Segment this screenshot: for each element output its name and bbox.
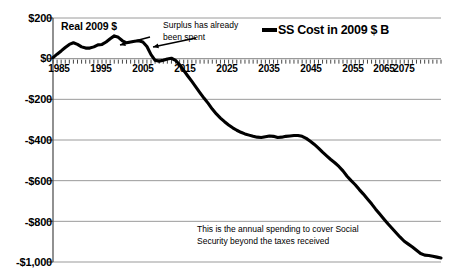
annotation-surplus-spent: Surplus has already been spent xyxy=(163,19,238,43)
x-axis-tick-2075: 2075 xyxy=(384,63,424,74)
x-axis-tick-2045: 2045 xyxy=(291,63,331,74)
chart-legend: SS Cost in 2009 $ B xyxy=(262,23,389,37)
x-axis-tick-2005: 2005 xyxy=(123,63,163,74)
legend-label-ss-cost: SS Cost in 2009 $ B xyxy=(278,23,389,37)
y-axis-tick-2: -$200 xyxy=(0,93,52,105)
chart-container: $200 $0 -$200 -$400 -$600 -$800 -$1,000 … xyxy=(0,0,458,269)
annotation-real-dollars: Real 2009 $ xyxy=(61,20,117,32)
y-axis-tick-4: -$600 xyxy=(0,175,52,187)
arrow-head-surplus-note xyxy=(153,44,159,49)
annotation-deficit-explanation: This is the annual spending to cover Soc… xyxy=(197,223,359,247)
legend-line-swatch-icon xyxy=(262,28,277,32)
y-axis-tick-6: -$1,000 xyxy=(0,256,52,268)
y-axis-tick-3: -$400 xyxy=(0,134,52,146)
y-axis-tick-5: -$800 xyxy=(0,216,52,228)
x-axis-tick-1995: 1995 xyxy=(81,63,121,74)
x-axis-tick-2025: 2025 xyxy=(207,63,247,74)
y-axis-tick-0: $200 xyxy=(0,12,52,24)
x-axis-tick-2015: 2015 xyxy=(165,63,205,74)
x-axis-tick-1985: 1985 xyxy=(39,63,79,74)
x-axis-tick-2035: 2035 xyxy=(249,63,289,74)
